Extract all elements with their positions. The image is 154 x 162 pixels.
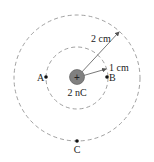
point-c-dot	[75, 139, 79, 143]
point-a-label: A	[37, 72, 45, 83]
charge-sign: +	[74, 72, 80, 83]
point-a-dot	[44, 75, 48, 79]
charge-label: 2 nC	[67, 87, 87, 98]
point-b-label: B	[109, 72, 116, 83]
point-c-label: C	[74, 144, 81, 155]
radius-1cm-arrow	[82, 69, 106, 76]
outer-radius-label: 2 cm	[91, 33, 111, 44]
charge-diagram: + 2 nC 2 cm 1 cm A B C	[0, 0, 154, 162]
